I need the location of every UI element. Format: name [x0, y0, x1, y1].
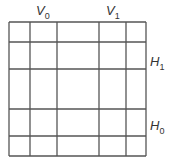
grid-diagram: [0, 0, 174, 164]
label-h0: H0: [150, 118, 164, 136]
label-v1: V1: [106, 3, 120, 21]
label-v0: V0: [36, 3, 50, 21]
label-h1: H1: [150, 54, 164, 72]
